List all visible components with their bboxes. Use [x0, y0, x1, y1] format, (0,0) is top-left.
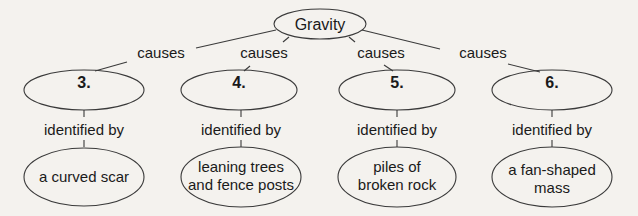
link-label-causes: causes	[240, 44, 288, 61]
blank-number-4: 4.	[232, 74, 245, 91]
concept-map: Gravity causes causes causes causes 3. 4…	[0, 0, 638, 216]
connector-line	[283, 37, 289, 42]
evidence-text: a curved scar	[39, 168, 129, 185]
connector-line	[95, 62, 127, 71]
evidence-text: a fan-shaped	[508, 161, 596, 178]
link-label-identified-by: identified by	[357, 121, 438, 138]
blank-number-6: 6.	[545, 74, 558, 91]
link-label-identified-by: identified by	[512, 121, 593, 138]
blank-number-3: 3.	[77, 74, 90, 91]
evidence-text: broken rock	[358, 176, 437, 193]
link-label-causes: causes	[357, 44, 405, 61]
connector-line	[349, 37, 355, 42]
link-label-causes: causes	[137, 44, 185, 61]
link-label-identified-by: identified by	[44, 121, 125, 138]
evidence-text: and fence posts	[188, 176, 294, 193]
link-label-causes: causes	[459, 44, 507, 61]
blank-number-5: 5.	[390, 74, 403, 91]
evidence-text: mass	[534, 179, 570, 196]
evidence-text: piles of	[373, 158, 421, 175]
root-label: Gravity	[295, 16, 346, 33]
link-label-identified-by: identified by	[201, 121, 282, 138]
evidence-text: leaning trees	[198, 158, 284, 175]
